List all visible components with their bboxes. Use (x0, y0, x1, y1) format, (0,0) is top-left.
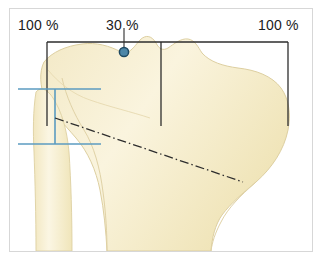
label-right-percent: 100 % (258, 18, 299, 32)
label-middle-percent: 30 % (106, 18, 139, 32)
anatomical-diagram-figure: 100 % 30 % 100 % (0, 0, 322, 261)
measurement-point-marker[interactable] (119, 47, 128, 56)
label-left-percent: 100 % (18, 18, 59, 32)
diagram-canvas (0, 0, 322, 261)
